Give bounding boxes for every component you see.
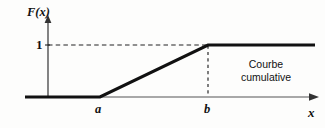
cumulative-distribution-figure: F(x) x 1 a b Courbe cumulative [0, 0, 325, 128]
curve-annotation-line-2: cumulative [229, 71, 303, 84]
x-axis-arrowhead [309, 93, 319, 101]
y-axis-label: F(x) [27, 6, 50, 19]
x-tick-label-b: b [204, 103, 210, 116]
x-axis-label: x [308, 106, 315, 119]
curve-annotation-line-1: Courbe [229, 58, 303, 71]
x-tick-label-a: a [95, 103, 101, 116]
y-tick-label-one: 1 [36, 38, 43, 51]
curve-annotation: Courbe cumulative [229, 58, 303, 83]
